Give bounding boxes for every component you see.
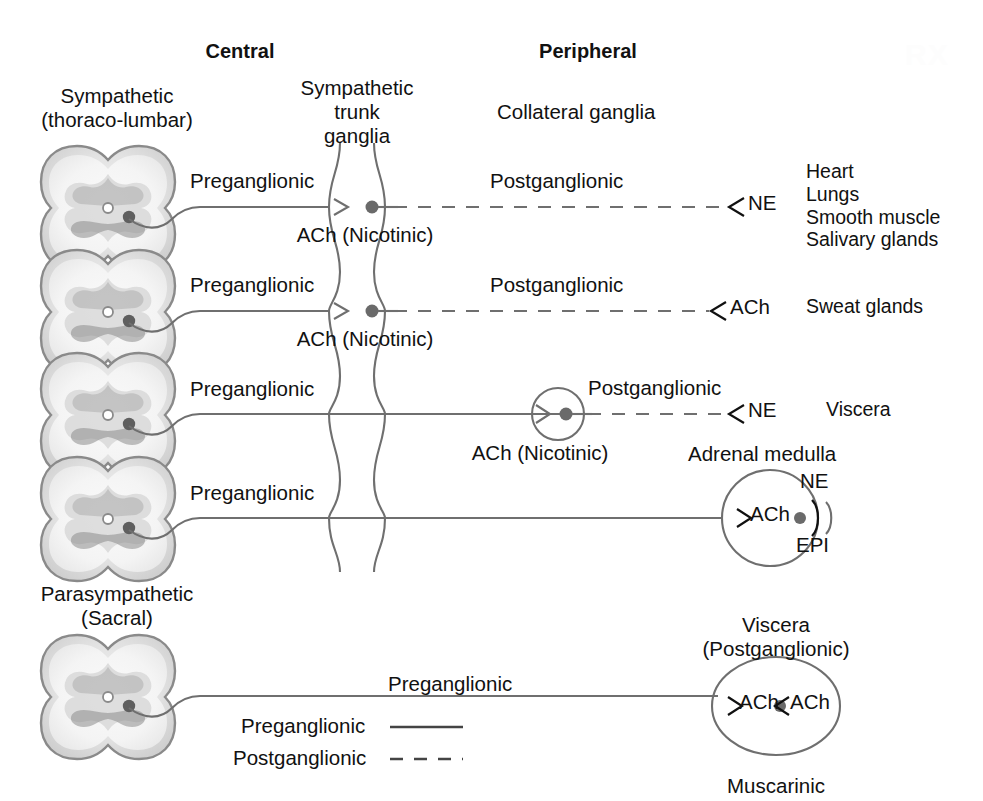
ganglion-transmitter-row-3: ACh (Nicotinic) <box>472 442 609 465</box>
trunk-ganglia-line3: ganglia <box>301 124 414 148</box>
target-sweat-glands: Sweat glands <box>806 296 923 318</box>
spinal-cord-sympathetic-4 <box>41 457 722 581</box>
sympathetic-division-label: Sympathetic (thoraco-lumbar) <box>41 84 193 132</box>
postganglionic-fiber-row-3 <box>588 405 744 423</box>
preganglionic-label-row-4: Preganglionic <box>190 482 314 505</box>
target-lungs: Lungs <box>806 183 940 206</box>
postganglionic-fiber-row-2 <box>394 302 726 320</box>
viscera-label-line2: (Postganglionic) <box>703 637 850 661</box>
target-viscera-sympathetic: Viscera <box>826 399 891 421</box>
trunk-ganglia-line1: Sympathetic <box>301 76 414 100</box>
parasympathetic-division-line2: (Sacral) <box>41 606 194 630</box>
legend-lines <box>390 727 463 759</box>
target-smooth-muscle: Smooth muscle <box>806 206 940 229</box>
ganglion-transmitter-row-1: ACh (Nicotinic) <box>297 224 434 247</box>
target-heart: Heart <box>806 160 940 183</box>
ganglion-transmitter-in-row-5: ACh <box>739 691 779 714</box>
target-salivary-glands: Salivary glands <box>806 228 940 251</box>
preganglionic-label-row-2: Preganglionic <box>190 274 314 297</box>
synapse-row-2 <box>334 303 398 319</box>
spinal-cord-parasympathetic <box>41 635 718 759</box>
preganglionic-label-row-3: Preganglionic <box>190 378 314 401</box>
terminal-transmitter-row-1: NE <box>748 192 776 215</box>
column-header-peripheral: Peripheral <box>539 40 637 62</box>
legend-preganglionic-label: Preganglionic <box>241 715 365 738</box>
synapse-row-1 <box>334 199 398 215</box>
adrenal-medulla-label: Adrenal medulla <box>688 443 836 466</box>
trunk-ganglia-line2: trunk <box>301 100 414 124</box>
preganglionic-label-row-5: Preganglionic <box>388 673 512 696</box>
legend-postganglionic-label: Postganglionic <box>233 747 366 770</box>
sympathetic-division-line1: Sympathetic <box>41 84 193 108</box>
ganglion-transmitter-out-row-5: ACh <box>790 691 830 714</box>
preganglionic-label-row-1: Preganglionic <box>190 170 314 193</box>
adrenal-hormone-epi: EPI <box>796 534 829 557</box>
viscera-postganglionic-label: Viscera (Postganglionic) <box>703 613 850 661</box>
postganglionic-label-row-2: Postganglionic <box>490 274 623 297</box>
sympathetic-trunk-ganglia-label: Sympathetic trunk ganglia <box>301 76 414 148</box>
watermark: RX <box>905 38 949 72</box>
terminal-transmitter-row-3: NE <box>748 399 776 422</box>
diagram-canvas: Central Peripheral RX Sympathetic (thora… <box>0 0 983 801</box>
adrenal-hormone-ne: NE <box>800 470 828 493</box>
muscarinic-receptor-label: Muscarinic <box>727 775 825 798</box>
postganglionic-fiber-row-1 <box>394 198 744 216</box>
ganglion-transmitter-row-2: ACh (Nicotinic) <box>297 328 434 351</box>
collateral-ganglia-label: Collateral ganglia <box>497 101 655 124</box>
ganglion-transmitter-row-4: ACh <box>750 503 790 526</box>
parasympathetic-division-label: Parasympathetic (Sacral) <box>41 582 194 630</box>
postganglionic-label-row-1: Postganglionic <box>490 170 623 193</box>
column-header-central: Central <box>206 40 275 62</box>
viscera-label-line1: Viscera <box>703 613 850 637</box>
target-list-row-1: Heart Lungs Smooth muscle Salivary gland… <box>806 160 940 251</box>
parasympathetic-division-line1: Parasympathetic <box>41 582 194 606</box>
terminal-transmitter-row-2: ACh <box>730 296 770 319</box>
sympathetic-division-line2: (thoraco-lumbar) <box>41 108 193 132</box>
postganglionic-label-row-3: Postganglionic <box>588 377 721 400</box>
